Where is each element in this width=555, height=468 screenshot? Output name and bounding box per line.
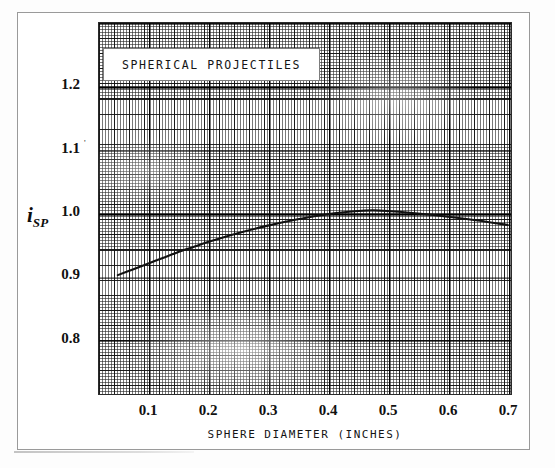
- y-tick-label-5: 0.8: [34, 330, 80, 347]
- chart-title-plaque: SPHERICAL PROJECTILES: [103, 48, 320, 81]
- chart-title: SPHERICAL PROJECTILES: [122, 58, 301, 72]
- x-tick-label-7: 0.7: [487, 402, 529, 419]
- y-axis-title: iSP: [27, 203, 49, 231]
- y-axis-title-subscript: SP: [33, 215, 49, 230]
- y-tick-stray-mark: ': [84, 138, 86, 148]
- y-tick-label-1: 1.2: [34, 76, 80, 93]
- x-tick-label-5: 0.5: [367, 402, 409, 419]
- x-axis-title: SPHERE DIAMETER (INCHES): [98, 428, 512, 441]
- x-tick-label-3: 0.3: [247, 402, 289, 419]
- y-tick-label-4: 0.9: [34, 266, 80, 283]
- x-tick-label-2: 0.2: [187, 402, 229, 419]
- figure-root: SPHERICAL PROJECTILES 1.2 1.1 ' 1.0 0.9 …: [0, 0, 555, 468]
- y-tick-label-2: 1.1: [34, 140, 80, 157]
- x-tick-label-6: 0.6: [427, 402, 469, 419]
- scan-artifact-line: [14, 451, 194, 453]
- x-tick-label-4: 0.4: [307, 402, 349, 419]
- x-tick-label-1: 0.1: [127, 402, 169, 419]
